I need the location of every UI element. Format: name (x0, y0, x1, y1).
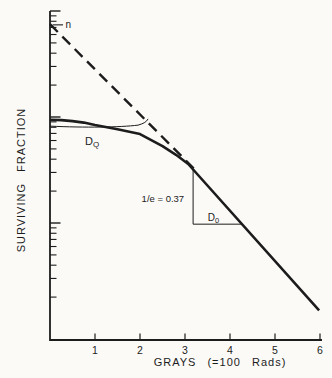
axis-ticks (50, 11, 320, 340)
dq-label: DQ (85, 135, 99, 150)
survival-curve-line (50, 120, 319, 310)
inv-e-label: 1/e = 0.37 (142, 193, 185, 204)
x-axis-title: GRAYS (=100 Rads) (110, 356, 330, 368)
data-series (50, 24, 319, 310)
survival-curve-figure: 123456 nDQ1/e = 0.37D0 GRAYS (=100 Rads)… (0, 0, 332, 378)
x-tick-labels: 123456 (92, 344, 323, 356)
axes (50, 11, 322, 340)
n-label: n (66, 19, 72, 30)
x-tick-label: 2 (137, 344, 143, 356)
x-tick-label: 6 (317, 344, 323, 356)
x-tick-label: 5 (272, 344, 278, 356)
axis-lines (50, 11, 322, 340)
d0-label: D0 (208, 212, 219, 225)
x-tick-label: 4 (227, 344, 233, 356)
extrapolated-exponential-line (50, 24, 194, 169)
x-tick-label: 3 (182, 344, 188, 356)
y-axis-title: SURVIVING FRACTION (15, 70, 27, 290)
x-tick-label: 1 (92, 344, 98, 356)
survival-curve-chart: 123456 nDQ1/e = 0.37D0 (0, 0, 332, 378)
